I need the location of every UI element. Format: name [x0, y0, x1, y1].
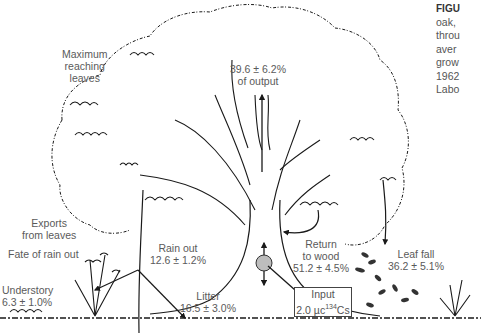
caption-heading: FIGU	[436, 2, 460, 16]
caption-line: grow	[436, 56, 460, 70]
output-value: 39.6 ± 6.2%	[230, 63, 286, 75]
label-line: Litter	[180, 290, 236, 302]
understory-value: 6.3 ± 1.0%	[2, 296, 53, 308]
input-title: Input	[295, 288, 351, 301]
label-line: Rain out	[150, 242, 206, 254]
leaf-fall-arrow	[383, 180, 386, 244]
return-to-wood-label: Return to wood 51.2 ± 4.5%	[293, 238, 349, 274]
caption-line: throu	[436, 29, 460, 43]
output-label: 39.6 ± 6.2% of output	[230, 63, 286, 87]
input-box: Input 2.0 µc134Cs	[294, 287, 352, 317]
isotope-element: Cs	[337, 303, 350, 315]
label-line: Exports	[22, 217, 76, 229]
litter-arrow	[138, 270, 185, 318]
leaf-fall-label: Leaf fall 36.2 ± 5.1%	[388, 248, 444, 272]
label-line: Leaf fall	[388, 248, 444, 260]
return-to-wood-arrow	[284, 210, 319, 233]
fate-of-rain-out-label: Fate of rain out	[8, 248, 79, 260]
caption-line: Labo	[436, 83, 460, 97]
label-line: to wood	[293, 250, 349, 262]
tracer-injection-circle	[256, 255, 272, 271]
caption-line: 1962	[436, 70, 460, 84]
label-line: from leaves	[22, 229, 76, 241]
litter-value: 16.5 ± 3.0%	[180, 302, 236, 314]
isotope-mass: 134	[325, 303, 337, 310]
label-line: reaching	[62, 60, 108, 72]
input-value: 2.0 µc	[296, 303, 325, 315]
return-to-wood-value: 51.2 ± 4.5%	[293, 262, 349, 274]
maximum-reaching-leaves-label: Maximum reaching leaves	[62, 48, 108, 84]
exports-label: Exports from leaves	[22, 217, 76, 241]
litter-label: Litter 16.5 ± 3.0%	[180, 290, 236, 314]
caption-line: oak,	[436, 16, 460, 30]
right-shrub	[440, 280, 470, 316]
label-line: Understory	[2, 284, 53, 296]
tree-crown-outline	[62, 5, 409, 246]
leaf-fall-value: 36.2 ± 5.1%	[388, 260, 444, 272]
caption-line: aver	[436, 43, 460, 57]
understory-label: Understory 6.3 ± 1.0%	[2, 284, 53, 308]
rain-out-label: Rain out 12.6 ± 1.2%	[150, 242, 206, 266]
rain-out-line	[139, 190, 143, 333]
label-line: Return	[293, 238, 349, 250]
input-amount: 2.0 µc134Cs	[295, 301, 351, 316]
label-line: Maximum	[62, 48, 108, 60]
label-line: of output	[230, 75, 286, 87]
rain-out-value: 12.6 ± 1.2%	[150, 254, 206, 266]
figure-caption: FIGU oak, throu aver grow 1962 Labo	[436, 2, 460, 97]
label-line: leaves	[62, 72, 108, 84]
